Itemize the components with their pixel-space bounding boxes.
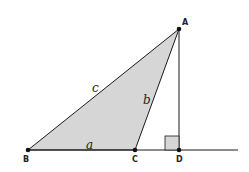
triangle-diagram: A B C D c b a <box>0 0 249 172</box>
point-c <box>133 148 138 153</box>
side-label-c: c <box>92 81 99 95</box>
right-angle-marker <box>165 136 179 150</box>
point-d <box>177 148 182 153</box>
point-a <box>177 27 182 32</box>
diagram-svg: A B C D c b a <box>0 0 249 172</box>
label-c: C <box>132 155 138 164</box>
label-d: D <box>176 155 183 164</box>
side-label-a: a <box>86 138 93 152</box>
side-label-b: b <box>143 93 151 107</box>
label-a: A <box>182 18 189 27</box>
triangle-abc <box>28 29 179 150</box>
label-b: B <box>23 155 29 164</box>
point-b <box>26 148 31 153</box>
